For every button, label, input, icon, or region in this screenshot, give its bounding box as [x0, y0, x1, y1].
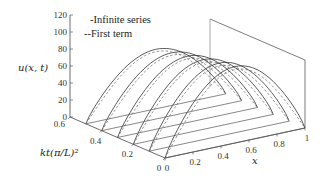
t-tick-label: 0.2: [122, 149, 133, 159]
legend-first-term: --First term: [84, 28, 132, 39]
x-tick-label: 1: [305, 133, 310, 143]
t-axis-label: kt(π/L)²: [40, 147, 78, 158]
first-term-curve: [118, 58, 258, 137]
curves: [86, 49, 305, 159]
x-axis-label: x: [252, 155, 258, 166]
u-tick-label: 40: [58, 78, 68, 88]
x-tick-label: 0.4: [217, 151, 229, 161]
u-tick-label: 80: [58, 44, 68, 54]
x-tick-label: 0.6: [245, 145, 257, 155]
x-tick-label: 0.8: [273, 139, 285, 149]
u-axis-label: u(x, t): [18, 62, 48, 73]
t-tick-label: 0.6: [54, 119, 66, 129]
u-tick-label: 100: [54, 27, 68, 37]
surface-plot: 02040608010012000.20.40.60.8100.20.40.6 …: [0, 0, 333, 178]
t-tick-label: 0: [157, 163, 162, 173]
infinite-series-curve: [118, 55, 258, 137]
u-tick-label: 120: [54, 10, 68, 20]
t-tick-label: 0.4: [90, 136, 102, 146]
infinite-series-curve: [149, 62, 289, 151]
x-tick-label: 0: [165, 163, 170, 173]
u-tick-label: 60: [58, 61, 68, 71]
x-tick-label: 0.2: [189, 157, 200, 167]
u-tick-label: 20: [58, 95, 68, 105]
legend-infinite-series: -Infinite series: [90, 14, 151, 25]
